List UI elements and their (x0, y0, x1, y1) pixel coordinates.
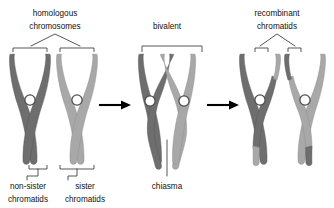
chromatid-recombinant-2-dark-bottom (306, 146, 312, 166)
bivalent-label: bivalent (153, 22, 182, 31)
centromere-bivalent-left (145, 96, 155, 106)
centromere-bivalent-right (179, 96, 189, 106)
nonsister-label-line1: non-sister (10, 182, 46, 191)
figure-background (0, 0, 334, 208)
homologous-label-line1: homologous (33, 9, 78, 18)
sister-label-line2: chromatids (65, 195, 105, 204)
chromatid-recombinant-1-light-bottom (253, 146, 259, 166)
recombinant-label-line2: chromatids (257, 22, 297, 31)
chiasma-label: chiasma (152, 182, 183, 191)
crossing-over-diagram: homologous chromosomes non-sister (0, 0, 334, 208)
recombinant-label-line1: recombinant (254, 9, 300, 18)
centromere-recombinant-1 (255, 95, 265, 105)
nonsister-label-line2: chromatids (8, 195, 48, 204)
sister-label-line1: sister (75, 182, 95, 191)
centromere-recombinant-2 (300, 95, 310, 105)
homologous-label-line2: chromosomes (29, 22, 80, 31)
centromere-maternal (25, 95, 35, 105)
centromere-paternal (72, 95, 82, 105)
